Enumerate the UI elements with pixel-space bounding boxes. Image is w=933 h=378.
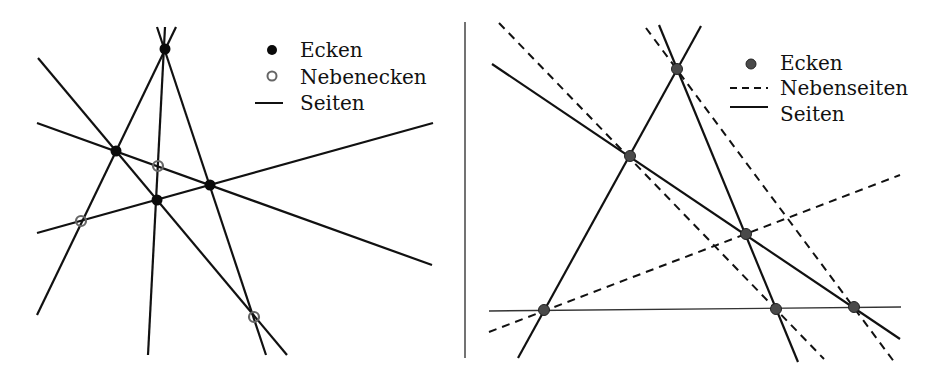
legend-label-seiten: Seiten xyxy=(780,102,845,126)
vertex-filled-dot xyxy=(771,304,782,315)
left-legend: Ecken Nebenecken Seiten xyxy=(255,38,427,115)
legend-label-nebenseiten: Nebenseiten xyxy=(780,76,908,100)
side-line xyxy=(38,58,287,355)
vertex-filled-dot xyxy=(672,64,683,75)
legend-filled-dot-icon xyxy=(746,59,756,69)
side-line xyxy=(37,123,433,233)
legend-open-circle-icon xyxy=(268,72,277,81)
side-line xyxy=(157,27,266,355)
vertex-filled-dot xyxy=(160,44,171,55)
diagram-canvas: Ecken Nebenecken Seiten Ecken Nebenseite… xyxy=(0,0,933,378)
vertex-filled-dot xyxy=(111,146,122,157)
vertex-filled-dot xyxy=(849,302,860,313)
right-legend: Ecken Nebenseiten Seiten xyxy=(730,51,908,126)
legend-label-seiten: Seiten xyxy=(300,91,365,115)
side-line xyxy=(489,307,901,311)
vertex-filled-dot xyxy=(205,180,216,191)
right-panel-complete-quadrilateral: Ecken Nebenseiten Seiten xyxy=(489,23,908,363)
left-panel-complete-quadrilateral: Ecken Nebenecken Seiten xyxy=(37,27,433,355)
legend-label-ecken: Ecken xyxy=(300,38,363,62)
vertex-filled-dot xyxy=(625,151,636,162)
left-secondary-vertices xyxy=(76,161,259,322)
vertex-filled-dot xyxy=(741,229,752,240)
legend-label-nebenecken: Nebenecken xyxy=(300,65,427,89)
vertex-filled-dot xyxy=(152,195,163,206)
vertex-filled-dot xyxy=(539,305,550,316)
legend-filled-dot-icon xyxy=(267,45,277,55)
legend-label-ecken: Ecken xyxy=(780,51,843,75)
